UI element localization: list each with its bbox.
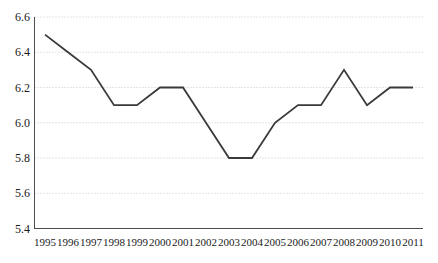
x-tick-label: 2002	[195, 236, 217, 248]
x-tick-label: 2008	[333, 236, 356, 248]
x-tick-label: 2001	[172, 236, 194, 248]
y-tick-label: 6.0	[15, 116, 30, 130]
x-tick-label: 2004	[241, 236, 264, 248]
data-line-series-1	[45, 35, 413, 158]
y-tick-label: 6.2	[15, 81, 30, 95]
x-tick-label: 1996	[57, 236, 80, 248]
x-tick-label: 2000	[149, 236, 172, 248]
x-tick-label: 2009	[356, 236, 379, 248]
y-tick-label: 6.6	[15, 10, 30, 24]
x-tick-label: 1995	[34, 236, 57, 248]
x-tick-label: 1998	[103, 236, 126, 248]
x-tick-label: 1997	[80, 236, 103, 248]
line-chart: 5.45.65.86.06.26.46.61995199619971998199…	[0, 0, 438, 263]
y-tick-label: 6.4	[15, 45, 30, 59]
x-tick-label: 2011	[402, 236, 424, 248]
x-tick-label: 2007	[310, 236, 333, 248]
x-tick-label: 1999	[126, 236, 149, 248]
x-tick-label: 2006	[287, 236, 310, 248]
y-tick-label: 5.4	[15, 222, 30, 236]
x-tick-label: 2005	[264, 236, 287, 248]
y-tick-label: 5.8	[15, 151, 30, 165]
line-chart-figure: 5.45.65.86.06.26.46.61995199619971998199…	[0, 0, 438, 263]
x-tick-label: 2010	[379, 236, 402, 248]
y-tick-label: 5.6	[15, 186, 30, 200]
x-tick-label: 2003	[218, 236, 241, 248]
